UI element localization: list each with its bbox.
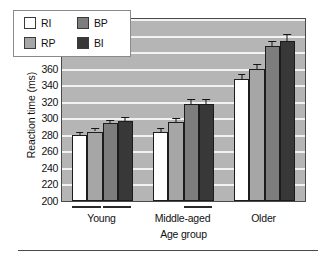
bar-rect (280, 41, 295, 201)
bar-rect (234, 79, 249, 201)
bar-rect (72, 135, 87, 201)
bar-rect (249, 69, 264, 201)
y-axis-tick-label: 340 (41, 81, 58, 90)
bar-rect (265, 46, 280, 201)
legend-swatch-icon (24, 17, 36, 29)
bar-rect (184, 104, 199, 201)
legend-swatch-icon (77, 17, 89, 29)
error-bar-cap (122, 117, 130, 118)
bar-rect (199, 104, 214, 201)
error-bar-cap (76, 132, 84, 133)
bar-group (153, 19, 214, 201)
y-axis-tick-label: 320 (41, 97, 58, 106)
bar-rect (153, 132, 168, 201)
x-axis-group-labels: YoungMiddle-agedOlder (61, 212, 306, 226)
error-bar-cap (268, 41, 276, 42)
legend-label: RI (41, 16, 51, 30)
legend-label: BP (94, 16, 108, 30)
bar-bp-middle-aged (184, 19, 199, 201)
caption-divider (18, 250, 318, 251)
y-axis-tick-label: 360 (41, 64, 58, 73)
error-bar-cap (238, 74, 246, 75)
y-axis-tick-label: 220 (41, 180, 58, 189)
significance-brackets (61, 203, 306, 211)
error-bar-cap (157, 128, 165, 129)
significance-bracket (72, 206, 101, 208)
x-axis-group-label: Older (214, 212, 314, 224)
y-axis-tick-label: 300 (41, 114, 58, 123)
significance-bracket (103, 206, 132, 208)
bar-rp-older (249, 19, 264, 201)
bar-bi-middle-aged (199, 19, 214, 201)
y-axis-tick-label: 280 (41, 130, 58, 139)
bar-rect (168, 122, 183, 201)
error-bar-cap (253, 64, 261, 65)
legend-swatch-icon (77, 37, 89, 49)
y-axis-tick-label: 260 (41, 147, 58, 156)
bar-rp-middle-aged (168, 19, 183, 201)
significance-bracket (184, 206, 213, 208)
legend-label: BI (94, 36, 104, 50)
x-axis-title: Age group (61, 228, 306, 240)
error-bar-cap (106, 120, 114, 121)
error-bar-cap (284, 34, 292, 35)
bar-bi-older (280, 19, 295, 201)
bar-rect (118, 121, 133, 201)
y-axis-tick-label: 240 (41, 163, 58, 172)
bar-ri-older (234, 19, 249, 201)
error-bar-cap (203, 99, 211, 100)
bar-bp-older (265, 19, 280, 201)
chart-legend: RIRPBPBI (13, 10, 131, 57)
y-axis-tick-label: 200 (41, 197, 58, 206)
bar-ri-middle-aged (153, 19, 168, 201)
bar-rect (87, 132, 102, 201)
error-bar-cap (187, 99, 195, 100)
legend-swatch-icon (24, 37, 36, 49)
error-bar-cap (172, 118, 180, 119)
figure-container: Reaction time (ms) 420400380360340320300… (0, 0, 333, 264)
legend-label: RP (41, 36, 55, 50)
bar-group (234, 19, 295, 201)
error-bar-cap (91, 128, 99, 129)
bar-rect (103, 123, 118, 201)
